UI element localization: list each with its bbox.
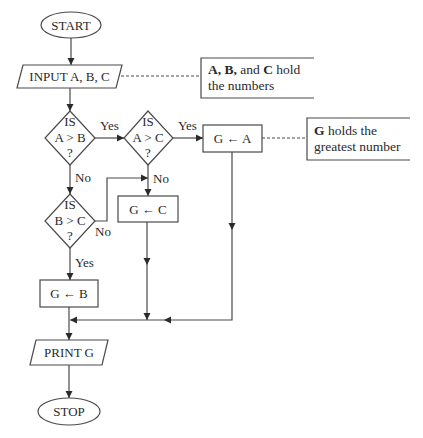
decision-ab-line1: IS	[64, 114, 76, 129]
arrowhead	[141, 175, 148, 182]
arrowhead	[164, 317, 171, 324]
node-decision-ac: IS A > C ?	[124, 111, 173, 165]
input-label: INPUT A, B, C	[29, 69, 109, 84]
node-assign-a: G ← A	[203, 125, 262, 152]
arrowhead	[68, 58, 75, 65]
edge-label-ac-yes: Yes	[178, 118, 197, 133]
arrowhead	[67, 187, 74, 194]
arrowhead	[145, 189, 152, 196]
decision-bc-line1: IS	[64, 197, 76, 212]
node-decision-bc: IS B > C ?	[45, 194, 95, 248]
edge-label-bc-no: No	[95, 224, 111, 239]
arrowhead	[144, 313, 151, 320]
edge-label-ac-no: No	[153, 171, 169, 186]
arrowhead	[67, 273, 74, 280]
assign-a-label: G ← A	[214, 131, 252, 146]
arrowhead	[144, 258, 151, 265]
arrowhead	[66, 333, 73, 340]
node-assign-b: G ← B	[40, 280, 98, 307]
node-start: START	[41, 12, 101, 38]
arrowhead	[67, 104, 74, 111]
node-print: PRINT G	[30, 340, 108, 365]
arrowhead	[70, 317, 77, 324]
decision-ac-line3: ?	[145, 145, 151, 160]
result-note-line1: G holds the	[314, 123, 377, 138]
assign-c-label: G ← C	[129, 202, 167, 217]
flowchart-canvas: START INPUT A, B, C A, B, and C hold the…	[0, 0, 423, 438]
assign-b-label: G ← B	[50, 286, 88, 301]
print-label: PRINT G	[44, 345, 94, 360]
input-note-line1: A, B, and C hold	[208, 62, 301, 77]
node-input: INPUT A, B, C	[17, 65, 122, 88]
start-label: START	[51, 18, 90, 33]
edge-label-bc-yes: Yes	[75, 255, 94, 270]
arrowhead	[196, 135, 203, 142]
edge-label-ab-no: No	[75, 170, 91, 185]
arrowhead	[229, 223, 236, 230]
arrowhead	[66, 391, 73, 398]
node-stop: STOP	[38, 398, 100, 425]
decision-bc-line2: B > C	[54, 213, 85, 228]
stop-label: STOP	[53, 404, 85, 419]
decision-ab-line3: ?	[67, 145, 73, 160]
node-decision-ab: IS A > B ?	[45, 111, 95, 165]
input-note-line2: the numbers	[208, 78, 274, 93]
result-note-line2: greatest number	[314, 139, 401, 154]
edge-label-ab-yes: Yes	[100, 118, 119, 133]
decision-ab-line2: A > B	[54, 130, 86, 145]
arrowhead	[117, 135, 124, 142]
annotation-input-note: A, B, and C hold the numbers	[201, 58, 314, 98]
annotation-result-note: G holds the greatest number	[307, 118, 410, 160]
node-assign-c: G ← C	[118, 196, 178, 222]
decision-bc-line3: ?	[67, 228, 73, 243]
decision-ac-line1: IS	[142, 114, 154, 129]
decision-ac-line2: A > C	[132, 130, 163, 145]
